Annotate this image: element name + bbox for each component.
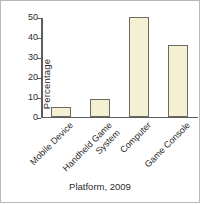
y-tick-label: 30 [28, 52, 38, 62]
bar-chart-figure: 01020304050 Percentage Mobile DeviceHand… [0, 0, 200, 203]
y-tick-label: 0 [33, 112, 38, 122]
x-axis-line [41, 117, 198, 119]
plot-area: 01020304050 Percentage [41, 18, 198, 118]
y-tick-label: 50 [28, 12, 38, 22]
bar [168, 45, 188, 117]
x-axis-title: Platform, 2009 [1, 181, 199, 193]
bar [90, 99, 110, 117]
y-tick-label: 20 [28, 72, 38, 82]
x-axis-tick-labels: Mobile DeviceHandheld GameSystemComputer… [41, 120, 198, 180]
y-tick-label: 10 [28, 92, 38, 102]
y-tick-label: 40 [28, 32, 38, 42]
y-axis-title: Percentage [40, 0, 54, 32]
bar [129, 17, 149, 117]
